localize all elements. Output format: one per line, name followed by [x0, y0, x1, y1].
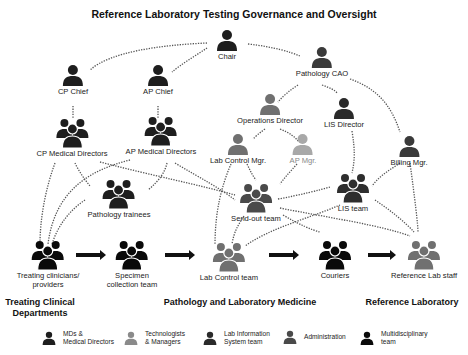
group-icon: [55, 118, 89, 148]
edge-lisdir-listeam: [352, 131, 354, 173]
edge-sendout-listeam: [278, 187, 330, 199]
node-cp-medical-directors: CP Medical Directors: [36, 118, 107, 158]
group-icon: [212, 242, 246, 272]
node-label: Lab Control Mgr.: [210, 156, 266, 165]
node-label: Operations Director: [237, 116, 303, 125]
node-label: Reference Lab staff: [391, 271, 457, 280]
node-label: AP Mgr.: [290, 156, 317, 165]
edge-chair-cao: [248, 44, 300, 56]
node-reference-lab-staff: Reference Lab staff: [391, 240, 457, 280]
section-clinical-departments: Treating Clinical Departments: [2, 297, 78, 319]
legend-admin: Administration: [283, 330, 346, 344]
group-icon: [102, 179, 136, 209]
node-treating-clinicians: Treating clinicians/ providers: [17, 240, 80, 289]
node-label: Specimen collection team: [107, 271, 158, 289]
node-couriers: Couriers: [318, 240, 352, 280]
node-send-out-team: Send-out team: [231, 183, 281, 223]
node-cp-chief: CP Chief: [58, 64, 88, 96]
node-label: LIS Director: [324, 120, 364, 129]
edge-trainees-clinicians: [52, 200, 85, 244]
person-icon: [227, 133, 249, 155]
node-label: CP Medical Directors: [36, 149, 107, 158]
node-ap-mgr: AP Mgr.: [290, 133, 317, 165]
group-icon: [115, 240, 149, 270]
person-icon: [62, 64, 84, 86]
node-pathology-cao: Pathology CAO: [296, 46, 348, 78]
edge-lcm-labcontrol: [215, 164, 231, 245]
node-label: Treating clinicians/ providers: [17, 271, 80, 289]
node-label: Lab Control team: [200, 273, 258, 282]
edge-chair-ap-chief: [172, 48, 207, 72]
legend-label: Lab Information System team: [224, 330, 270, 346]
legend-label: Multidisciplinary team: [381, 330, 428, 346]
node-label: Chair: [216, 52, 238, 61]
legend-md: MDs & Medical Directors: [42, 330, 114, 346]
legend-label: Administration: [304, 333, 346, 341]
legend-label: MDs & Medical Directors: [63, 330, 114, 346]
person-icon: [124, 331, 138, 345]
person-icon: [311, 46, 333, 68]
edge-billing-reflab: [410, 163, 418, 232]
node-lab-control-mgr: Lab Control Mgr.: [210, 133, 266, 165]
person-icon: [333, 97, 355, 119]
node-billing-mgr: Billing Mgr.: [390, 135, 427, 167]
legend-tech: Technologists & Managers: [124, 330, 185, 346]
group-icon: [239, 183, 273, 213]
node-label: Pathology trainees: [88, 210, 151, 219]
node-operations-director: Operations Director: [237, 93, 303, 125]
group-icon: [336, 173, 370, 203]
group-icon: [31, 240, 65, 270]
section-reference-laboratory: Reference Laboratory: [362, 297, 462, 308]
edge-cao-lis: [322, 85, 337, 93]
node-lab-control-team: Lab Control team: [200, 242, 258, 282]
node-label: CP Chief: [58, 87, 88, 96]
node-specimen-collection: Specimen collection team: [107, 240, 158, 289]
person-icon: [259, 93, 281, 115]
section-pathology-lab-medicine: Pathology and Laboratory Medicine: [150, 297, 330, 308]
node-pathology-trainees: Pathology trainees: [88, 179, 151, 219]
group-icon: [407, 240, 441, 270]
person-icon: [292, 133, 314, 155]
node-lis-team: LIS team: [336, 173, 370, 213]
node-ap-chief: AP Chief: [143, 64, 173, 96]
node-label: AP Chief: [143, 87, 173, 96]
edge-apmgr-sendout: [280, 164, 297, 184]
person-icon: [203, 331, 217, 345]
node-lis-director: LIS Director: [324, 97, 364, 129]
edge-lcm-sendout: [247, 164, 256, 180]
person-icon: [216, 29, 238, 51]
person-icon: [398, 135, 420, 157]
group-icon: [144, 116, 178, 146]
node-ap-medical-directors: AP Medical Directors: [126, 116, 197, 156]
node-chair: Chair: [216, 29, 238, 61]
person-icon: [147, 64, 169, 86]
edge-sendout-couriers: [283, 215, 320, 232]
diagram-title: Reference Laboratory Testing Governance …: [0, 8, 468, 20]
person-icon: [283, 330, 297, 344]
person-icon: [360, 331, 374, 345]
node-label: Couriers: [318, 271, 352, 280]
edge-apmd-trainees: [148, 163, 167, 190]
group-icon: [318, 240, 352, 270]
node-label: Billing Mgr.: [390, 158, 427, 167]
node-label: LIS team: [336, 204, 370, 213]
legend-multi: Multidisciplinary team: [360, 330, 428, 346]
legend-label: Technologists & Managers: [145, 330, 185, 346]
node-label: Send-out team: [231, 214, 281, 223]
legend-lis: Lab Information System team: [203, 330, 270, 346]
edge-cpmd-clinicians: [40, 163, 55, 244]
person-icon: [42, 331, 56, 345]
node-label: Pathology CAO: [296, 69, 348, 78]
node-label: AP Medical Directors: [126, 147, 197, 156]
